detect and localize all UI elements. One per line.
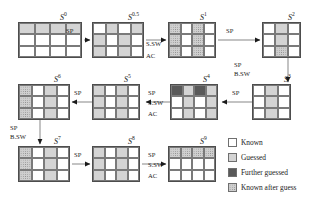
grid-cell <box>171 108 183 119</box>
grid-cell <box>204 158 216 169</box>
state-label-s1: S1 <box>200 12 207 22</box>
grid-cell <box>169 170 181 181</box>
grid-cell <box>169 158 181 169</box>
grid-cell <box>35 23 51 34</box>
grid-cell <box>57 170 70 181</box>
transition-label-t-s8-s9b: S.SW <box>148 161 163 169</box>
state-label-superscript: 0 <box>64 11 67 17</box>
grid-cell <box>263 23 275 34</box>
grid-cell <box>265 108 277 119</box>
grid-cell <box>169 147 181 158</box>
grid-cell <box>93 158 105 169</box>
grid-cell <box>206 108 218 119</box>
transition-label-t-s7-s8: SP <box>74 151 81 159</box>
grid-cell <box>32 108 45 119</box>
grid-cell <box>50 46 66 57</box>
grid-cell <box>19 158 32 169</box>
grid-cell <box>44 147 57 158</box>
grid-cell <box>32 170 45 181</box>
legend-further-guessed: Further guessed <box>228 168 288 177</box>
legend-label: Further guessed <box>241 168 288 177</box>
grid-cell <box>192 23 204 34</box>
grid-cell <box>204 23 216 34</box>
grid-cell <box>253 108 265 119</box>
grid-cell <box>105 147 117 158</box>
legend-swatch-icon <box>228 153 237 162</box>
grid-cell <box>19 147 32 158</box>
grid-cell <box>19 96 32 107</box>
grid-cell <box>253 96 265 107</box>
grid-cell <box>116 85 128 96</box>
grid-cell <box>131 46 144 57</box>
grid-cell <box>131 34 144 45</box>
grid-cell <box>35 46 51 57</box>
grid-cell <box>194 108 206 119</box>
grid-cell <box>93 108 105 119</box>
transition-label-t-s1-s2: SP <box>226 27 233 35</box>
grid-cell <box>253 85 265 96</box>
grid-cell <box>57 108 70 119</box>
grid-cell <box>105 108 117 119</box>
state-label-s0-5: S0.5 <box>128 12 139 22</box>
grid-cell <box>35 34 51 45</box>
grid-cell <box>105 170 117 181</box>
grid-cell <box>19 85 32 96</box>
grid-cell <box>194 96 206 107</box>
grid-cell <box>278 96 290 107</box>
grid-cell <box>19 34 35 45</box>
transition-label-t-s4-s5c: AC <box>148 110 157 118</box>
grid-cell <box>118 46 131 57</box>
grid-cell <box>278 85 290 96</box>
legend-label: Guessed <box>241 153 266 162</box>
state-grid-s5 <box>92 84 140 120</box>
grid-cell <box>50 23 66 34</box>
transition-label-t-s8-s9a: SP <box>148 151 155 159</box>
state-grid-s3 <box>252 84 291 120</box>
state-label-superscript: 7 <box>58 135 61 141</box>
grid-cell <box>192 158 204 169</box>
grid-cell <box>181 170 193 181</box>
grid-cell <box>32 85 45 96</box>
state-label-s3: S3 <box>284 74 291 84</box>
grid-cell <box>93 85 105 96</box>
grid-cell <box>206 85 218 96</box>
grid-cell <box>192 170 204 181</box>
grid-cell <box>93 147 105 158</box>
state-grid-s8 <box>92 146 140 182</box>
grid-cell <box>204 46 216 57</box>
state-label-s5: S5 <box>124 74 131 84</box>
transition-label-t-s6-s7a: SP <box>10 124 17 132</box>
grid-cell <box>128 96 140 107</box>
grid-cell <box>116 147 128 158</box>
grid-cell <box>181 34 193 45</box>
legend-swatch-icon <box>228 183 237 192</box>
legend-known: Known <box>228 138 263 147</box>
grid-cell <box>57 85 70 96</box>
grid-cell <box>288 23 300 34</box>
grid-cell <box>50 34 66 45</box>
grid-cell <box>192 46 204 57</box>
grid-cell <box>118 34 131 45</box>
state-grid-s7 <box>18 146 70 182</box>
grid-cell <box>66 34 82 45</box>
state-label-s8: S8 <box>128 136 135 146</box>
grid-cell <box>192 34 204 45</box>
grid-cell <box>106 23 119 34</box>
state-grid-s0-5 <box>92 22 144 58</box>
grid-cell <box>32 147 45 158</box>
grid-cell <box>93 96 105 107</box>
grid-cell <box>57 158 70 169</box>
legend-label: Known after guess <box>241 183 296 192</box>
grid-cell <box>206 96 218 107</box>
grid-cell <box>128 85 140 96</box>
transition-label-t-s05-s1a: S.SW <box>146 40 161 48</box>
grid-cell <box>93 34 106 45</box>
grid-cell <box>44 108 57 119</box>
grid-cell <box>116 170 128 181</box>
grid-cell <box>204 34 216 45</box>
grid-cell <box>128 170 140 181</box>
state-grid-s1 <box>168 22 216 58</box>
transition-label-t-s4-s5a: SP <box>148 89 155 97</box>
grid-cell <box>192 147 204 158</box>
legend-swatch-icon <box>228 138 237 147</box>
